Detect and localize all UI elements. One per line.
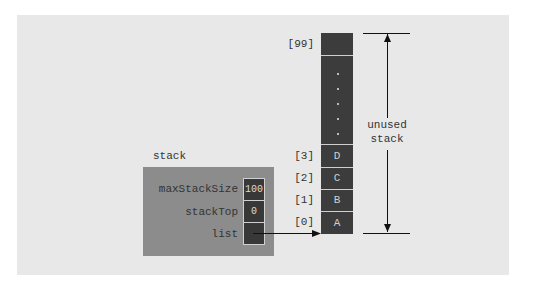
list-pointer-line: [253, 233, 315, 234]
dimension-line-lower: [387, 150, 388, 232]
arrow-down-icon: [383, 224, 392, 233]
unused-stack-label-line1: unused: [362, 119, 412, 131]
index-label-0: [0]: [274, 216, 314, 228]
ellipsis-dot: [337, 73, 339, 75]
array-cell-2: C: [321, 167, 353, 189]
field-label-maxstacksize: maxStackSize: [150, 183, 238, 195]
field-value-maxstacksize: 100: [243, 178, 265, 201]
field-label-list: list: [150, 228, 238, 240]
unused-stack-label-line2: stack: [362, 133, 412, 145]
ellipsis-dot: [337, 88, 339, 90]
array-cell-99: [321, 33, 353, 55]
ellipsis-dot: [337, 103, 339, 105]
index-label-3: [3]: [274, 150, 314, 162]
index-label-1: [1]: [274, 194, 314, 206]
arrow-up-icon: [383, 34, 392, 43]
dimension-bottom-tick: [363, 233, 410, 234]
stack-label: stack: [153, 150, 186, 162]
index-label-99: [99]: [274, 38, 314, 50]
array-cell-unused-range: [321, 55, 353, 144]
array-cell-1: B: [321, 189, 353, 211]
array-cell-0: A: [321, 211, 353, 234]
array-cell-3: D: [321, 144, 353, 167]
field-value-stacktop: 0: [243, 200, 265, 223]
field-label-stacktop: stackTop: [150, 206, 238, 218]
index-label-2: [2]: [274, 172, 314, 184]
ellipsis-dot: [337, 133, 339, 135]
ellipsis-dot: [337, 118, 339, 120]
dimension-line-upper: [387, 34, 388, 118]
